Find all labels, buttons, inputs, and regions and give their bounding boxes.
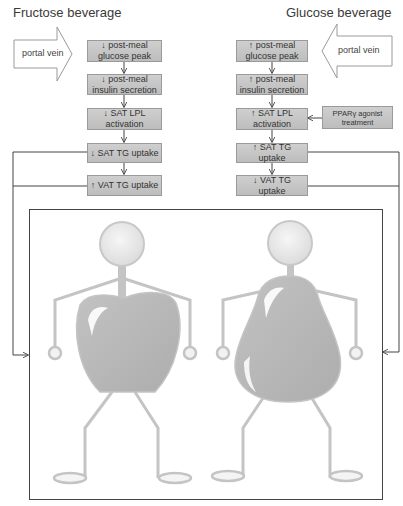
right-vat-tg-box: ↓ VAT TG uptake [236,175,308,196]
right-sat-tg-box: ↑ SAT TG uptake [236,143,308,163]
diagram-graphics [0,0,403,506]
left-glucose-peak-box: ↓ post-meal glucose peak [87,40,162,62]
left-insulin-secretion-box: ↓ post-meal insulin secretion [87,74,162,95]
left-sat-lpl-box: ↓ SAT LPL activation [87,108,162,130]
right-insulin-secretion-box: ↑ post-meal insulin secretion [236,74,308,95]
right-glucose-peak-box: ↑ post-meal glucose peak [236,40,308,62]
right-sat-lpl-box: ↑ SAT LPL activation [236,108,308,130]
apple-figure [49,222,196,483]
left-portal-vein-label: portal vein [22,48,64,58]
left-vat-tg-box: ↑ VAT TG uptake [87,175,162,196]
left-sat-tg-box: ↓ SAT TG uptake [87,143,162,163]
pear-figure [212,221,362,481]
right-portal-vein-label: portal vein [338,45,380,55]
ppar-agonist-box: PPARγ agonist treatment [322,106,393,129]
